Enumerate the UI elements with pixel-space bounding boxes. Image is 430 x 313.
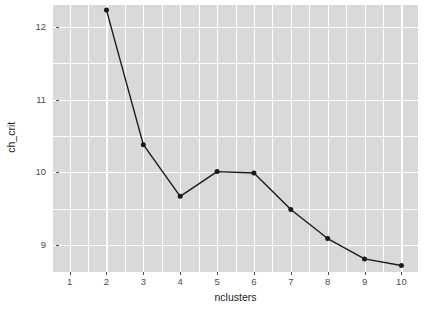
x-axis-tick-label: 10: [381, 277, 421, 287]
y-axis-tick-mark: [56, 100, 59, 101]
x-axis-tick-label: 8: [308, 277, 348, 287]
x-axis-tick-label: 1: [50, 277, 90, 287]
y-axis-tick-label: 11: [12, 95, 46, 105]
data-point: [362, 256, 367, 261]
data-point: [399, 263, 404, 268]
y-axis-tick-label: 10: [12, 167, 46, 177]
x-axis-tick-label: 9: [345, 277, 385, 287]
x-axis-tick-label: 4: [160, 277, 200, 287]
x-axis-tick-mark: [401, 272, 402, 275]
x-axis-tick-label: 7: [271, 277, 311, 287]
data-point: [215, 169, 220, 174]
y-axis-tick-label: 12: [12, 22, 46, 32]
x-axis-tick-mark: [291, 272, 292, 275]
data-point: [141, 142, 146, 147]
y-axis-tick-mark: [56, 27, 59, 28]
plot-root: 9101112 12345678910 nclusters ch_crit: [0, 0, 430, 313]
series-points: [104, 8, 404, 268]
series-line: [106, 10, 401, 265]
x-axis-tick-mark: [217, 272, 218, 275]
data-point: [288, 207, 293, 212]
x-axis-tick-label: 3: [123, 277, 163, 287]
x-axis-title: nclusters: [53, 292, 418, 303]
y-axis-tick-mark: [56, 245, 59, 246]
data-point: [178, 194, 183, 199]
x-axis-tick-mark: [254, 272, 255, 275]
x-axis-tick-mark: [106, 272, 107, 275]
plot-panel: [53, 5, 418, 272]
y-axis-tick-label: 9: [12, 240, 46, 250]
data-point: [325, 236, 330, 241]
line-series: [53, 5, 418, 272]
data-point: [104, 8, 109, 13]
x-axis-tick-mark: [70, 272, 71, 275]
x-axis-tick-mark: [180, 272, 181, 275]
x-axis-tick-label: 5: [197, 277, 237, 287]
x-axis-tick-label: 2: [86, 277, 126, 287]
data-point: [251, 171, 256, 176]
x-axis-tick-label: 6: [234, 277, 274, 287]
y-axis-title: ch_crit: [6, 107, 17, 167]
x-axis-tick-mark: [143, 272, 144, 275]
y-axis-tick-mark: [56, 172, 59, 173]
x-axis-tick-mark: [328, 272, 329, 275]
x-axis-tick-mark: [365, 272, 366, 275]
